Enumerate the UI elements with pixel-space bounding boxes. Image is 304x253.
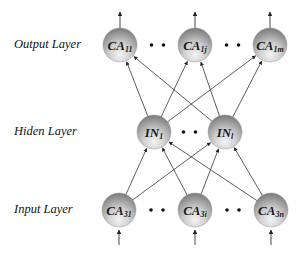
hidden-node: IN1 (137, 115, 171, 149)
ellipsis-dot (225, 43, 229, 47)
connection-arrow (166, 56, 255, 123)
nodes: CA11CA1jCA1mIN1INlCA31CA3iCA3n (102, 28, 288, 227)
connection-arrow (232, 61, 262, 118)
network-graph: CA11CA1jCA1mIN1INlCA31CA3iCA3n (0, 0, 304, 253)
ellipsis-dot (194, 130, 198, 134)
connection-arrow (131, 143, 210, 201)
connection-arrow (134, 56, 213, 122)
input-node: CA3n (254, 193, 288, 227)
connection-arrow (162, 148, 188, 197)
ellipsis-dot (161, 208, 165, 212)
connection-arrow (169, 142, 258, 202)
output-node: CA1j (178, 28, 212, 62)
connection-arrow (125, 148, 146, 196)
connection-arrow (127, 62, 149, 118)
ellipsis-dot (182, 130, 186, 134)
input-node: CA31 (102, 193, 136, 227)
ellipsis-dot (150, 43, 154, 47)
connection-arrow (234, 148, 263, 197)
output-node: CA1m (253, 28, 287, 62)
connection-arrow (201, 62, 220, 118)
ellipsis-dot (225, 208, 229, 212)
ellipsis-dot (237, 43, 241, 47)
connection-arrow (200, 149, 218, 196)
hidden-node: INl (208, 115, 242, 149)
ellipsis-dot (149, 208, 153, 212)
output-node: CA11 (103, 28, 137, 62)
ellipsis-dot (162, 43, 166, 47)
ellipsis-dot (237, 208, 241, 212)
input-node: CA3i (178, 193, 212, 227)
neural-network-diagram: Output Layer Hiden Layer Input Layer CA1… (0, 0, 304, 253)
